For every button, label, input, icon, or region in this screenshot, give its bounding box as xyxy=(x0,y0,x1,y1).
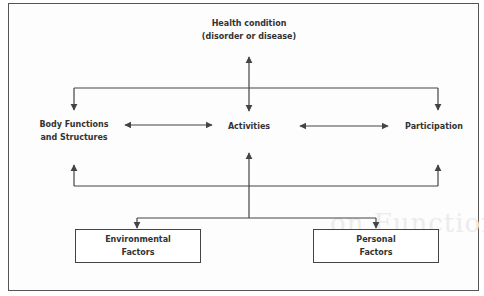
node-health-condition: Health condition (disorder or disease) xyxy=(199,17,299,43)
health-condition-title: Health condition xyxy=(199,17,299,30)
node-activities: Activities xyxy=(222,120,276,133)
health-condition-subtitle: (disorder or disease) xyxy=(199,30,299,43)
environmental-line2: Factors xyxy=(105,246,171,259)
personal-line2: Factors xyxy=(356,246,395,259)
personal-factors-label: Personal Factors xyxy=(356,233,395,259)
body-functions-line2: and Structures xyxy=(34,131,114,144)
node-personal-factors: Personal Factors xyxy=(313,229,439,263)
environmental-factors-label: Environmental Factors xyxy=(105,233,171,259)
body-functions-line1: Body Functions xyxy=(34,118,114,131)
personal-line1: Personal xyxy=(356,233,395,246)
node-participation: Participation xyxy=(400,120,468,133)
node-body-functions: Body Functions and Structures xyxy=(34,118,114,144)
environmental-line1: Environmental xyxy=(105,233,171,246)
node-environmental-factors: Environmental Factors xyxy=(75,229,201,263)
